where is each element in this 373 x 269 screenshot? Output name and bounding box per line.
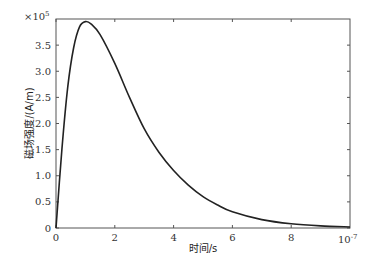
x-tick-label: 8 [288,232,294,243]
x-axis-label: 时间/s [189,242,218,254]
y-tick-label: 2.5 [35,92,51,103]
y-tick-label: 0 [45,223,51,234]
y-tick-label: 0.5 [35,196,51,207]
y-tick-label: 3.0 [35,66,51,77]
y-tick-label: 1.5 [35,144,51,155]
x-tick-label: 2 [112,232,118,243]
y-scale-multiplier: ×105 [24,10,50,22]
y-axis-label: 磁场强度/(A/m) [23,87,35,158]
x-tick-label: 0 [53,232,59,243]
y-tick-label: 3.5 [35,40,51,51]
y-tick-label: 2.0 [35,118,51,129]
x-tick-label: 4 [170,232,176,243]
x-scale-multiplier: 10-7 [338,233,358,245]
y-tick-label: 1.0 [35,170,51,181]
x-tick-label: 6 [229,232,235,243]
chart: 00.51.01.52.02.53.03.5 02468 ×105 10-7 时… [0,0,373,269]
